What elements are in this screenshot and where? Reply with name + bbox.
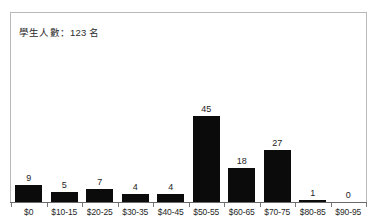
x-axis-tick [153,203,154,207]
bar [193,116,220,202]
x-axis-tick [189,203,190,207]
x-axis-category-label: $60-65 [229,207,255,218]
bar-value-label: 5 [62,180,67,190]
x-axis-category-label: $10-15 [51,207,77,218]
bar [264,150,291,202]
x-axis-tick [118,203,119,207]
bar [122,194,149,202]
bar [299,200,326,202]
x-axis-category-label: $50-55 [193,207,219,218]
bar [157,194,184,202]
x-axis-tick [224,203,225,207]
x-axis-category-label: $20-25 [87,207,113,218]
bar-value-label: 7 [97,177,102,187]
x-axis-tick [331,203,332,207]
bar-value-label: 9 [26,173,31,183]
bar [15,185,42,202]
bar [51,192,78,202]
bar-value-label: 4 [133,182,138,192]
bar [86,189,113,202]
bar-value-label: 45 [201,104,211,114]
x-axis-category-label: $90-95 [335,207,361,218]
x-axis-tick [366,203,367,207]
x-axis-category-label: $30-35 [122,207,148,218]
x-axis-category-label: $40-45 [158,207,184,218]
bar-value-label: 4 [168,182,173,192]
x-axis-tick [295,203,296,207]
x-axis-category-label: $70-75 [264,207,290,218]
x-axis-tick [82,203,83,207]
bar-value-label: 1 [310,188,315,198]
x-axis-tick [47,203,48,207]
x-axis-tick [260,203,261,207]
bar [228,168,255,202]
bar-value-label: 0 [346,190,351,200]
x-axis-tick [11,203,12,207]
bar-value-label: 18 [237,156,247,166]
bar-chart: 學生人數：123 名 9574445182710 $0$10-15$20-25$… [0,0,377,221]
x-axis-category-label: $0 [24,207,33,218]
bar-value-label: 27 [272,138,282,148]
x-axis-category-label: $80-85 [300,207,326,218]
plot-area [11,13,366,203]
